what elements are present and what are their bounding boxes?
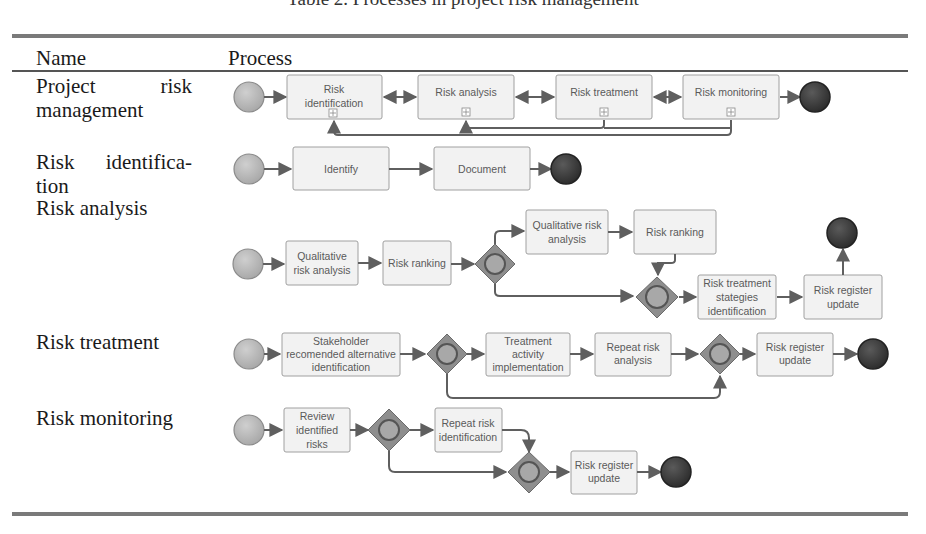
start-event-icon: [234, 339, 264, 369]
process-risk-monitoring: Review identified risks Repeat risk iden…: [234, 408, 691, 494]
task-label: Risk register: [766, 341, 825, 353]
task-label: Risk monitoring: [695, 86, 768, 98]
task-label: risks: [306, 438, 328, 450]
subprocess-plus-icon: [462, 108, 470, 116]
task-label: Repeat risk: [441, 417, 495, 429]
task-risk-identification[interactable]: Risk identification: [287, 75, 382, 119]
start-event-icon: [234, 415, 264, 445]
process-risk-identification: Identify Document: [234, 147, 581, 190]
task-treatment-activity-implementation[interactable]: Treatment activity implementation: [486, 333, 570, 376]
gateway-icon: [700, 334, 740, 374]
end-event-icon: [551, 154, 581, 184]
gateway-icon: [427, 334, 467, 374]
task-label: Risk ranking: [388, 257, 446, 269]
task-label: Risk treatment: [570, 86, 638, 98]
task-label: Repeat risk: [606, 341, 660, 353]
start-event-icon: [233, 249, 263, 279]
task-label: analysis: [614, 354, 652, 366]
task-label: analysis: [548, 233, 586, 245]
subprocess-plus-icon: [600, 108, 608, 116]
task-label: Qualitative: [297, 250, 347, 262]
gateway-icon: [636, 277, 678, 318]
task-label: Risk register: [814, 284, 873, 296]
task-label: Risk: [324, 83, 345, 95]
task-label: identification: [312, 361, 371, 373]
subprocess-plus-icon: [727, 108, 735, 116]
gateway-icon: [368, 409, 410, 451]
task-risk-monitoring[interactable]: Risk monitoring: [683, 75, 779, 119]
task-risk-treatment-strategies-identification[interactable]: Risk treatment stategies identification: [698, 275, 776, 319]
end-event-icon: [661, 457, 691, 487]
task-label: identification: [439, 431, 498, 443]
end-event-icon: [858, 339, 888, 369]
gateway-icon: [508, 452, 550, 493]
task-label: risk analysis: [293, 264, 350, 276]
task-label: Risk analysis: [435, 86, 496, 98]
gateway-icon: [475, 244, 515, 284]
task-risk-ranking-2[interactable]: Risk ranking: [634, 210, 716, 254]
task-qualitative-risk-analysis-2[interactable]: Qualitative risk analysis: [526, 210, 608, 254]
task-label: recomended alternative: [286, 348, 396, 360]
task-label: identification: [708, 305, 767, 317]
task-label: Document: [458, 163, 506, 175]
task-stakeholder-recommended-alternative-identification[interactable]: Stakeholder recomended alternative ident…: [282, 333, 400, 376]
subprocess-plus-icon: [329, 109, 337, 117]
task-label: implementation: [492, 361, 563, 373]
end-event-icon: [800, 82, 830, 112]
task-document[interactable]: Document: [434, 147, 530, 190]
task-label: Risk ranking: [646, 226, 704, 238]
task-label: Risk treatment: [703, 277, 771, 289]
task-label: Stakeholder: [313, 335, 370, 347]
start-event-icon: [234, 154, 264, 184]
task-label: identification: [305, 97, 364, 109]
task-label: identified: [296, 424, 338, 436]
task-risk-analysis[interactable]: Risk analysis: [418, 75, 514, 119]
task-label: Review: [300, 410, 335, 422]
task-risk-treatment[interactable]: Risk treatment: [556, 75, 652, 119]
task-label: update: [779, 354, 811, 366]
task-label: activity: [512, 348, 545, 360]
task-label: stategies: [716, 291, 758, 303]
task-label: Identify: [324, 163, 359, 175]
task-risk-register-update[interactable]: Risk register update: [757, 333, 833, 376]
task-label: update: [827, 298, 859, 310]
task-label: update: [588, 472, 620, 484]
task-label: Treatment: [504, 335, 552, 347]
task-risk-register-update[interactable]: Risk register update: [571, 451, 637, 494]
task-review-identified-risks[interactable]: Review identified risks: [284, 408, 350, 452]
task-repeat-risk-analysis[interactable]: Repeat risk analysis: [595, 333, 671, 376]
start-event-icon: [234, 82, 264, 112]
process-project-risk-management: Risk identification Risk analysis Risk t…: [234, 75, 830, 135]
process-risk-treatment: Stakeholder recomended alternative ident…: [234, 333, 888, 398]
task-risk-register-update[interactable]: Risk register update: [804, 275, 882, 319]
task-repeat-risk-identification[interactable]: Repeat risk identification: [435, 408, 502, 452]
task-label: Qualitative risk: [533, 219, 603, 231]
process-diagrams: .task { fill:#f2f2f2; stroke:#a0a0a0; st…: [0, 0, 926, 534]
task-qualitative-risk-analysis-1[interactable]: Qualitative risk analysis: [286, 241, 358, 285]
process-risk-analysis: Qualitative risk analysis Risk ranking Q…: [233, 210, 882, 319]
task-label: Risk register: [575, 459, 634, 471]
task-identify[interactable]: Identify: [293, 147, 389, 190]
task-risk-ranking-1[interactable]: Risk ranking: [383, 241, 451, 285]
end-event-icon: [827, 218, 857, 248]
